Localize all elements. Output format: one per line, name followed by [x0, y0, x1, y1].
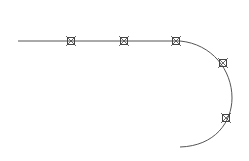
- path-diagram: [0, 0, 249, 161]
- box-x-marker-icon: [218, 58, 228, 68]
- box-x-marker-icon: [66, 36, 76, 46]
- background: [0, 0, 249, 161]
- box-x-marker-icon: [171, 36, 181, 46]
- box-x-marker-icon: [119, 36, 129, 46]
- box-x-marker-icon: [221, 113, 231, 123]
